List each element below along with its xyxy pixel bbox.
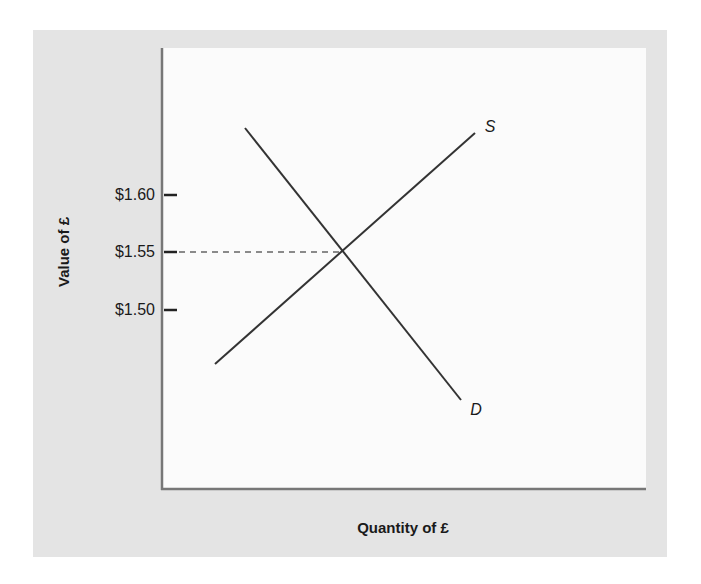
tick-label-160: $1.60 xyxy=(75,186,155,204)
supply-curve xyxy=(215,133,475,364)
demand-curve xyxy=(245,128,461,400)
y-axis-title: Value of £ xyxy=(55,217,72,287)
tick-label-150: $1.50 xyxy=(75,301,155,319)
x-axis-title: Quantity of £ xyxy=(357,519,449,536)
chart-graphics xyxy=(0,0,701,584)
demand-label: D xyxy=(470,401,482,419)
tick-label-155: $1.55 xyxy=(75,243,155,261)
supply-label: S xyxy=(485,118,496,136)
